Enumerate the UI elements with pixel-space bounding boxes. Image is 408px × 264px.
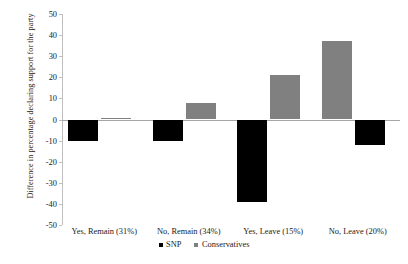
legend: SNPConservatives [0,240,408,249]
bar-snp-2 [237,120,267,202]
x-axis-label-3: No, Leave (20%) [316,227,401,236]
legend-swatch-icon [159,243,163,247]
y-tick-label: -10 [46,136,57,145]
y-tick-mark [59,77,62,78]
y-tick-label: 20 [49,73,57,82]
y-tick-mark [59,204,62,205]
y-tick-label: 0 [53,115,57,124]
bar-snp-0 [68,120,98,141]
bar-chart: Difference in percentage declaring suppo… [0,0,408,264]
y-axis-title: Difference in percentage declaring suppo… [18,0,44,212]
legend-item-conservatives[interactable]: Conservatives [194,240,249,249]
legend-label: Conservatives [202,240,249,249]
bar-snp-3 [355,120,385,145]
x-axis-label-2: Yes, Leave (15%) [231,227,316,236]
y-tick-mark [59,225,62,226]
y-tick-label: -30 [46,178,57,187]
y-tick-label: 30 [49,52,57,61]
y-tick-label: -50 [46,221,57,230]
bar-conservatives-1 [186,103,216,120]
x-axis-label-0: Yes, Remain (31%) [62,227,147,236]
legend-label: SNP [166,240,181,249]
y-tick-mark [59,14,62,15]
y-tick-mark [59,56,62,57]
y-tick-mark [59,120,62,121]
y-tick-mark [59,183,62,184]
bar-conservatives-0 [101,118,131,119]
y-tick-label: -40 [46,199,57,208]
y-tick-mark [59,98,62,99]
y-tick-mark [59,162,62,163]
zero-baseline [62,120,400,121]
bar-conservatives-2 [270,75,300,119]
plot-area: 50403020100-10-20-30-40-50 Yes, Remain (… [62,14,400,225]
y-tick-label: -20 [46,157,57,166]
x-axis-label-1: No, Remain (34%) [147,227,232,236]
y-tick-label: 50 [49,10,57,19]
y-tick-label: 10 [49,94,57,103]
y-tick-mark [59,141,62,142]
legend-swatch-icon [194,243,198,247]
y-tick-label: 40 [49,31,57,40]
legend-item-snp[interactable]: SNP [159,240,182,249]
bar-snp-1 [153,120,183,141]
y-tick-mark [59,35,62,36]
bar-conservatives-3 [322,41,352,119]
